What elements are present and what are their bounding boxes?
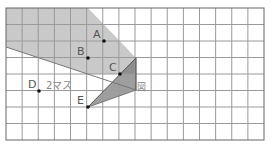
point-label-b: B [77,45,85,58]
point-label-c: C [109,61,117,74]
grid-diagram: ABCDE 2マス 図 [0,0,272,149]
small-glyph-label: 図 [137,82,146,92]
point-a [102,39,106,43]
point-c [118,72,122,76]
point-label-d: D [28,78,36,91]
two-squares-note: 2マス [46,80,72,91]
point-e [86,105,90,109]
point-label-e: E [77,94,84,107]
point-label-a: A [93,28,101,41]
point-d [37,89,41,93]
point-b [86,56,90,60]
